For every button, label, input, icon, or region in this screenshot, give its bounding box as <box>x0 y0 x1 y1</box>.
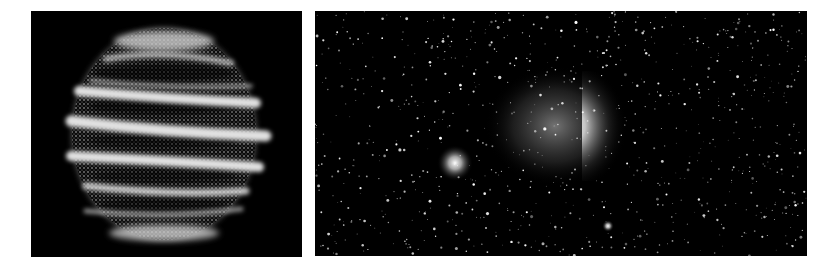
bright-star <box>602 220 614 232</box>
globular-cluster <box>437 145 473 181</box>
sphere-stream-render <box>31 11 302 257</box>
right-panel-star-field <box>315 11 807 256</box>
star-field-render <box>315 11 807 256</box>
left-panel-simulated-sphere <box>31 11 302 257</box>
